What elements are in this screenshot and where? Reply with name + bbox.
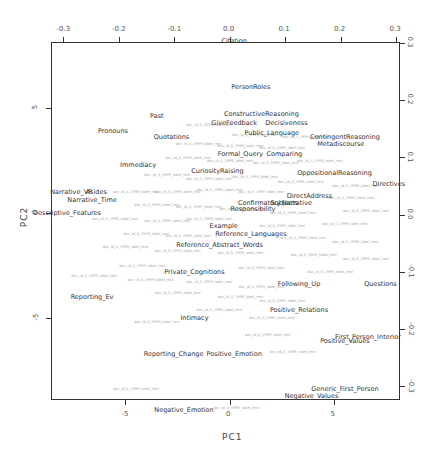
top-tick-label: 0.1 (279, 25, 290, 33)
y-axis-title: PC2 (19, 207, 29, 227)
right-tick (400, 157, 405, 158)
x-tick-label: -5 (122, 410, 129, 418)
document-label: doc_id_0_1999_label_text (207, 159, 253, 163)
variable-label: Asides (86, 188, 107, 196)
top-tick (396, 37, 397, 42)
top-tick-label: -0.1 (168, 25, 182, 33)
document-label: doc_id_0_1999_label_text (119, 264, 165, 268)
document-label: doc_id_0_1999_label_text (232, 175, 278, 179)
document-label: doc_id_0_1999_label_text (113, 190, 159, 194)
variable-label: Public_Language (245, 129, 300, 137)
document-label: doc_id_0_1999_label_text (186, 280, 232, 284)
variable-label: Following_Up (278, 280, 321, 288)
document-label: doc_id_0_1999_label_text (332, 240, 378, 244)
document-label: doc_id_0_1999_label_text (128, 278, 174, 282)
right-tick (400, 272, 405, 273)
variable-label: Questions (364, 280, 396, 288)
x-tick (230, 400, 231, 405)
document-label: doc_id_0_1999_label_text (217, 144, 263, 148)
right-tick-label: 0.0 (406, 208, 414, 219)
document-label: doc_id_0_1999_label_text (343, 209, 389, 213)
variable-label: Private_Cognitions (164, 268, 224, 276)
biplot-chart: -50550-5-0.3-0.2-0.10.00.10.20.30.30.20.… (0, 0, 439, 457)
document-label: doc_id_0_1999_label_text (197, 308, 243, 312)
y-tick (46, 318, 51, 319)
document-label: doc_id_0_1999_label_text (113, 387, 159, 391)
document-label: doc_id_0_1999_label_text (249, 316, 295, 320)
right-tick (400, 215, 405, 216)
document-label: doc_id_0_1999_label_text (291, 253, 337, 257)
document-label: doc_id_0_1999_label_text (92, 217, 138, 221)
document-label: doc_id_0_1999_label_text (253, 161, 299, 165)
document-label: doc_id_0_1999_label_text (71, 274, 117, 278)
document-label: doc_id_0_1999_label_text (238, 266, 284, 270)
document-label: doc_id_0_1999_label_text (197, 188, 243, 192)
x-tick (125, 400, 126, 405)
variable-label: Metadiscourse (317, 140, 364, 148)
y-tick (46, 108, 51, 109)
document-label: doc_id_0_1999_label_text (297, 159, 343, 163)
document-label: doc_id_0_1999_label_text (103, 245, 149, 249)
top-tick (174, 37, 175, 42)
variable-label: CuriosityRaising (191, 167, 243, 175)
document-label: doc_id_0_1999_label_text (134, 203, 180, 207)
variable-label: Positive_Emotion (207, 350, 262, 358)
variable-label: GiveFeedback (211, 119, 257, 127)
document-label: doc_id_0_1999_label_text (217, 251, 263, 255)
document-label: doc_id_0_1999_label_text (280, 236, 326, 240)
variable-label: Negative_Values (285, 392, 339, 400)
top-tick-label: 0.0 (223, 25, 234, 33)
document-label: doc_id_0_1999_label_text (186, 177, 232, 181)
top-tick-label: 0.2 (334, 25, 345, 33)
document-label: doc_id_0_1999_label_text (144, 219, 190, 223)
right-tick (400, 329, 405, 330)
document-label: doc_id_0_1999_label_text (155, 291, 201, 295)
top-tick (285, 37, 286, 42)
document-label: doc_id_0_1999_label_text (213, 406, 259, 410)
variable-label: Quotations (154, 133, 190, 141)
right-tick-label: 0.3 (406, 37, 414, 48)
right-tick-label: -0.2 (407, 322, 415, 336)
variable-label: Comparing (266, 150, 302, 158)
document-label: doc_id_0_1999_label_text (123, 232, 169, 236)
x-tick-label: 5 (331, 410, 335, 418)
variable-label: Positive_Relations (270, 306, 328, 314)
document-label: doc_id_0_1999_label_text (134, 320, 180, 324)
variable-label: Responsibility (231, 205, 276, 213)
document-label: doc_id_0_1999_label_text (176, 205, 222, 209)
x-tick-label: 0 (226, 410, 230, 418)
top-tick (119, 37, 120, 42)
top-tick-label: -0.3 (57, 25, 71, 33)
y-tick-label: 5 (31, 105, 39, 109)
top-tick-label: -0.2 (112, 25, 126, 33)
variable-label: Decisiveness (265, 119, 307, 127)
variable-label: Narrative (282, 199, 312, 207)
right-tick-label: 0.2 (406, 94, 414, 105)
x-tick (334, 400, 335, 405)
variable-label: Reporting_Change (144, 350, 204, 358)
document-label: doc_id_0_1999_label_text (322, 222, 368, 226)
variable-label: Narrative_Time (67, 196, 116, 204)
right-tick (400, 386, 405, 387)
variable-label: Positive_Values (320, 337, 370, 345)
top-tick (341, 37, 342, 42)
right-tick (400, 43, 405, 44)
top-tick-label: 0.3 (390, 25, 401, 33)
variable-label: Reference_Abstract_Words (176, 241, 263, 249)
document-label: doc_id_0_1999_label_text (155, 249, 201, 253)
document-label: doc_id_0_1999_label_text (332, 184, 378, 188)
variable-label: ConstructiveReasoning (224, 110, 299, 118)
x-axis-title: PC1 (222, 432, 242, 442)
document-label: doc_id_0_1999_label_text (270, 211, 316, 215)
right-tick (400, 100, 405, 101)
variable-label: PersonRoles (231, 83, 270, 91)
document-label: doc_id_0_1999_label_text (217, 295, 263, 299)
document-label: doc_id_0_1999_label_text (270, 350, 316, 354)
document-label: doc_id_0_1999_label_text (307, 270, 353, 274)
variable-label: Pronouns (98, 127, 128, 135)
document-label: doc_id_0_1999_label_text (245, 333, 291, 337)
document-label: doc_id_0_1999_label_text (165, 156, 211, 160)
document-label: doc_id_0_1999_label_text (238, 190, 284, 194)
right-tick-label: -0.3 (407, 379, 415, 393)
document-label: doc_id_0_1999_label_text (144, 173, 190, 177)
